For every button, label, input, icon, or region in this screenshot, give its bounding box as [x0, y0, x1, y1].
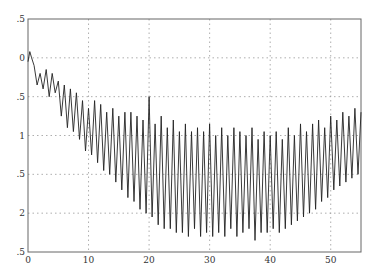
y-tick-label: .5 [16, 169, 25, 179]
signal-line [28, 52, 361, 241]
x-tick-label: 20 [143, 255, 155, 265]
y-tick-label: 1 [19, 131, 25, 141]
x-axis-tick-labels: 01020304050 [25, 255, 337, 265]
y-tick-label: 0 [19, 53, 25, 63]
y-tick-label: .5 [16, 247, 25, 257]
x-tick-label: 50 [325, 255, 337, 265]
line-chart: .50.51.52.5 01020304050 [0, 0, 378, 280]
y-tick-label: .5 [16, 92, 25, 102]
y-tick-label: .5 [16, 14, 25, 24]
x-tick-label: 0 [25, 255, 31, 265]
y-tick-label: 2 [19, 208, 25, 218]
x-tick-label: 40 [264, 255, 276, 265]
y-axis-tick-labels: .50.51.52.5 [16, 14, 25, 257]
x-tick-label: 30 [204, 255, 216, 265]
x-tick-label: 10 [83, 255, 95, 265]
